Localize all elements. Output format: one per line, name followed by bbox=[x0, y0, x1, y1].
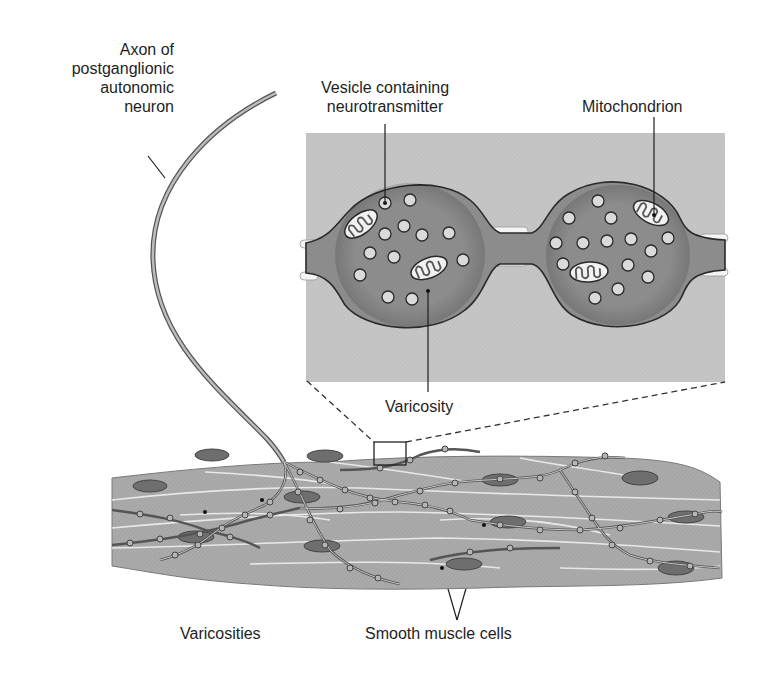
label-vesicle: Vesicle containing neurotransmitter bbox=[296, 78, 474, 116]
zoom-lines bbox=[307, 381, 725, 442]
label-vesicle-line2: neurotransmitter bbox=[296, 97, 474, 116]
varicosity-inset bbox=[300, 133, 728, 382]
label-axon: Axon of postganglionic autonomic neuron bbox=[20, 40, 174, 116]
smooth-muscle-tissue bbox=[112, 442, 722, 589]
label-axon-line4: neuron bbox=[20, 97, 174, 116]
label-vesicle-line1: Vesicle containing bbox=[296, 78, 474, 97]
diagram-canvas: Axon of postganglionic autonomic neuron … bbox=[0, 0, 768, 673]
label-axon-line1: Axon of bbox=[20, 40, 174, 59]
label-varicosities: Varicosities bbox=[180, 624, 261, 643]
label-mitochondrion: Mitochondrion bbox=[582, 97, 683, 116]
label-varicosity: Varicosity bbox=[385, 397, 453, 416]
label-axon-line2: postganglionic bbox=[20, 59, 174, 78]
label-smooth-muscle-cells: Smooth muscle cells bbox=[365, 624, 512, 643]
label-axon-line3: autonomic bbox=[20, 78, 174, 97]
axon bbox=[153, 93, 284, 462]
